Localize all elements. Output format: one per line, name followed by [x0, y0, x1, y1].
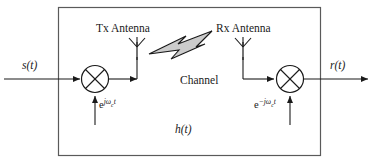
input-signal-label: s(t): [22, 60, 37, 72]
channel-impulse-response-label: h(t): [175, 124, 192, 136]
rx-antenna-label: Rx Antenna: [216, 23, 271, 35]
carrier-exponent-prefix-down: −j: [259, 97, 266, 106]
tx-antenna-icon: [129, 37, 145, 60]
rx-mixer: [277, 66, 304, 93]
channel-label: Channel: [180, 75, 218, 87]
downconversion-carrier-label: e−jωct: [254, 100, 276, 111]
carrier-exponent-suffix-down: t: [274, 97, 276, 106]
tx-antenna-label: Tx Antenna: [96, 23, 150, 35]
output-signal-label: r(t): [330, 60, 345, 72]
carrier-exponent-suffix-up: t: [114, 97, 116, 106]
rx-antenna-icon: [235, 37, 251, 60]
upconversion-carrier-label: ejωct: [99, 100, 116, 111]
tx-mixer: [82, 66, 109, 93]
lightning-bolt-icon: [149, 31, 212, 59]
communication-system-diagram: Tx Antenna Rx Antenna Channel h(t) s(t) …: [0, 0, 372, 164]
